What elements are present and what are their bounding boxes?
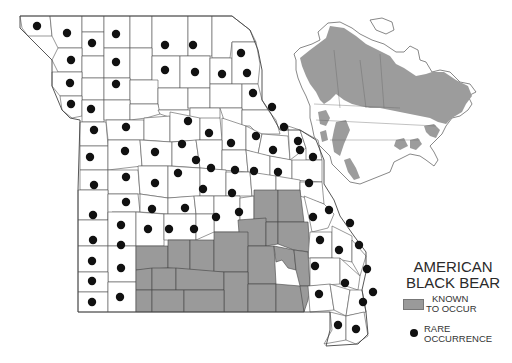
- legend-item-known: KNOWN TO OCCUR: [398, 291, 508, 317]
- legend-title: AMERICAN BLACK BEAR: [398, 259, 508, 291]
- rare-occurrence-dot-icon: [410, 329, 418, 337]
- legend-label-known: KNOWN TO OCCUR: [426, 294, 477, 314]
- legend-title-line2: BLACK BEAR: [398, 275, 508, 291]
- legend: AMERICAN BLACK BEAR KNOWN TO OCCUR RARE …: [398, 259, 508, 347]
- legend-item-rare: RARE OCCURRENCE: [398, 321, 508, 347]
- legend-title-line1: AMERICAN: [398, 259, 508, 275]
- legend-label-rare: RARE OCCURRENCE: [424, 324, 492, 344]
- known-range-swatch-icon: [403, 299, 424, 310]
